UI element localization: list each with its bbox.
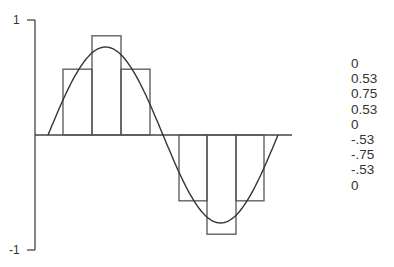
sample-bar (179, 135, 207, 201)
sample-bar (236, 135, 264, 201)
y-tick-label-top: 1 (13, 14, 20, 26)
sample-value: 0.75 (351, 86, 377, 101)
sample-value: 0 (351, 56, 377, 71)
sample-bar (121, 69, 150, 135)
sample-values-list: 0 0.53 0.75 0.53 0 -.53 -.75 -.53 0 (351, 56, 377, 193)
sample-bar (63, 69, 92, 135)
sample-value: 0.53 (351, 102, 377, 117)
sample-value: -.75 (351, 147, 377, 162)
sample-value: 0 (351, 178, 377, 193)
sample-value: -.53 (351, 132, 377, 147)
y-tick-label-bottom: -1 (9, 244, 20, 256)
sample-value: -.53 (351, 162, 377, 177)
sample-value: 0.53 (351, 71, 377, 86)
sample-value: 0 (351, 117, 377, 132)
chart-canvas (0, 0, 394, 267)
